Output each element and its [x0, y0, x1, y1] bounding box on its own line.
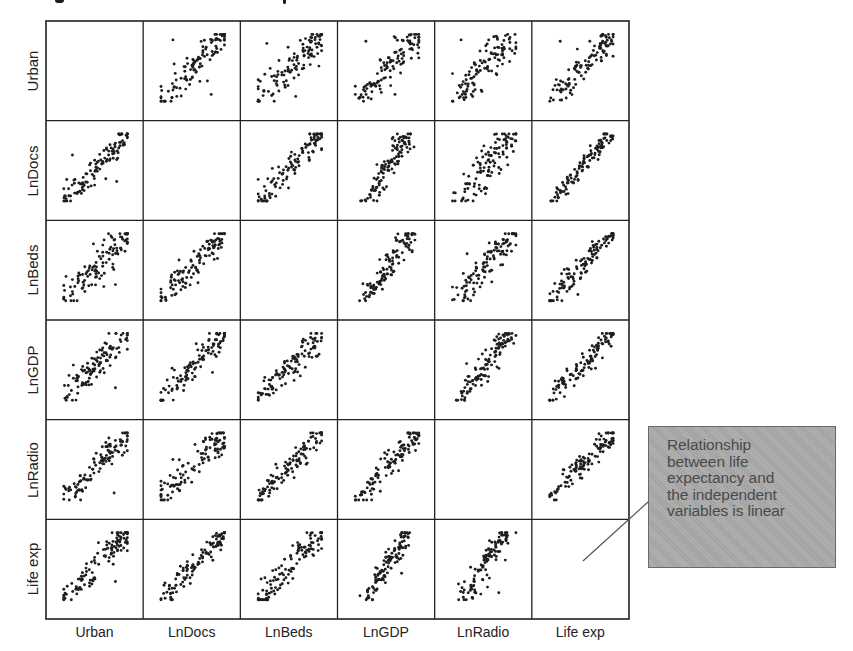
- data-point: [592, 349, 595, 352]
- data-point: [220, 544, 223, 547]
- data-point: [606, 45, 609, 48]
- data-point: [203, 457, 206, 460]
- data-point: [86, 366, 89, 369]
- data-point: [281, 183, 284, 186]
- data-point: [115, 537, 118, 540]
- data-point: [166, 494, 169, 497]
- data-point: [64, 592, 67, 595]
- data-point: [101, 160, 104, 163]
- data-point: [278, 171, 281, 174]
- data-point: [472, 164, 475, 167]
- data-point: [577, 61, 580, 64]
- data-point: [600, 59, 603, 62]
- data-point: [211, 559, 214, 562]
- data-point: [308, 159, 311, 162]
- data-point: [490, 70, 493, 73]
- data-point: [301, 43, 304, 46]
- data-point: [208, 243, 211, 246]
- data-point: [383, 168, 386, 171]
- data-point: [504, 34, 507, 37]
- data-point: [479, 162, 482, 165]
- data-point: [88, 377, 91, 380]
- data-point: [126, 242, 129, 245]
- data-point: [63, 384, 66, 387]
- data-point: [320, 531, 323, 534]
- data-point: [463, 296, 466, 299]
- data-point: [462, 173, 465, 176]
- data-point: [454, 200, 457, 203]
- data-point: [73, 482, 76, 485]
- data-point: [583, 161, 586, 164]
- data-point: [493, 147, 496, 150]
- data-point: [198, 354, 201, 357]
- data-point: [115, 356, 118, 359]
- data-point: [71, 290, 74, 293]
- data-point: [381, 577, 384, 580]
- data-point: [214, 456, 217, 459]
- data-point: [395, 61, 398, 64]
- data-point: [405, 242, 408, 245]
- data-point: [472, 287, 475, 290]
- data-point: [309, 537, 312, 540]
- data-point: [382, 176, 385, 179]
- data-point: [274, 586, 277, 589]
- data-point: [164, 100, 167, 103]
- data-point: [475, 282, 478, 285]
- data-point: [311, 356, 314, 359]
- data-point: [499, 351, 502, 354]
- data-point: [85, 570, 88, 573]
- data-point: [599, 443, 602, 446]
- data-point: [466, 88, 469, 91]
- data-point: [197, 254, 200, 257]
- data-point: [584, 461, 587, 464]
- data-point: [76, 281, 79, 284]
- data-point: [570, 373, 573, 376]
- data-point: [579, 473, 582, 476]
- data-point: [303, 546, 306, 549]
- data-point: [494, 52, 497, 55]
- data-point: [464, 379, 467, 382]
- data-point: [484, 192, 487, 195]
- data-point: [93, 461, 96, 464]
- data-point: [79, 474, 82, 477]
- data-point: [185, 276, 188, 279]
- data-point: [86, 181, 89, 184]
- data-point: [371, 478, 374, 481]
- data-point: [187, 366, 190, 369]
- data-point: [169, 485, 172, 488]
- data-point: [385, 474, 388, 477]
- data-point: [192, 272, 195, 275]
- data-point: [506, 542, 509, 545]
- data-point: [187, 462, 190, 465]
- data-point: [77, 385, 80, 388]
- data-point: [463, 386, 466, 389]
- data-point: [307, 50, 310, 53]
- data-point: [384, 575, 387, 578]
- data-point: [316, 52, 319, 55]
- data-point: [164, 597, 167, 600]
- data-point: [411, 441, 414, 444]
- callout-text-line: expectancy and: [667, 470, 827, 487]
- data-point: [198, 80, 201, 83]
- data-point: [215, 544, 218, 547]
- data-point: [298, 363, 301, 366]
- data-point: [360, 93, 363, 96]
- data-point: [292, 455, 295, 458]
- data-point: [407, 246, 410, 249]
- data-point: [391, 263, 394, 266]
- data-point: [497, 333, 500, 336]
- data-point: [88, 585, 91, 588]
- data-point: [90, 357, 93, 360]
- data-point: [493, 151, 496, 154]
- data-point: [413, 33, 416, 36]
- data-point: [84, 473, 87, 476]
- data-point: [78, 273, 81, 276]
- data-point: [374, 288, 377, 291]
- data-point: [463, 589, 466, 592]
- data-point: [282, 573, 285, 576]
- data-point: [393, 549, 396, 552]
- data-point: [103, 341, 106, 344]
- data-point: [171, 388, 174, 391]
- data-point: [369, 489, 372, 492]
- data-point: [123, 451, 126, 454]
